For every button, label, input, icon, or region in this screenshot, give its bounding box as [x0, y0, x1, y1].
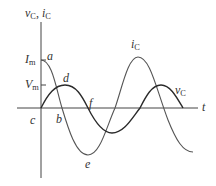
vc-label-sub: C [180, 89, 186, 98]
vm-label-sub: m [32, 83, 39, 92]
vc-curve-label: vC [175, 84, 186, 98]
y-axis-label: vC, iC [25, 7, 51, 21]
vm-label: Vm [25, 78, 39, 92]
point-c-label: c [30, 114, 35, 126]
point-d-label: d [63, 72, 69, 84]
im-label: Im [25, 53, 36, 67]
im-label-sub: m [29, 58, 36, 67]
point-e-label: e [85, 158, 90, 170]
ic-curve-label: iC [131, 38, 140, 52]
ic-label-sub: C [134, 43, 140, 52]
point-a-label: a [47, 50, 53, 62]
point-f-label: f [89, 97, 92, 109]
point-b-label: b [56, 113, 62, 125]
y-label-ic-sub: C [45, 12, 51, 21]
t-axis-label: t [202, 101, 205, 113]
